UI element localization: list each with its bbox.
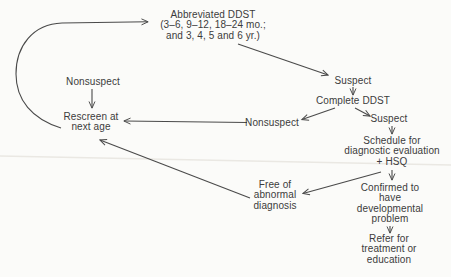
node-nonsuspect-left: Nonsuspect: [60, 77, 126, 87]
node-suspect-top: Suspect: [322, 76, 384, 86]
arrow-complete-ddst-to-nonsuspect: [302, 108, 335, 120]
node-abbreviated-ddst: Abbreviated DDST (3–6, 9–12, 18–24 mo.; …: [143, 10, 283, 41]
arrow-abbreviated-ddst-to-suspect: [238, 44, 328, 75]
flowchart-canvas: Abbreviated DDST (3–6, 9–12, 18–24 mo.; …: [0, 0, 451, 277]
node-confirmed-developmental-problem: Confirmed to have developmental problem: [345, 183, 435, 225]
node-rescreen-at-next-age: Rescreen at next age: [56, 112, 126, 133]
node-complete-ddst: Complete DDST: [313, 96, 393, 106]
arrow-free-of-abnormal-to-rescreen: [100, 140, 250, 198]
node-refer-for-treatment: Refer for treatment or education: [344, 234, 434, 265]
node-suspect-right: Suspect: [359, 114, 419, 124]
arrow-nonsuspect-center-to-rescreen: [124, 121, 247, 123]
node-schedule-diagnostic-evaluation: Schedule for diagnostic evaluation + HSQ: [337, 136, 447, 167]
node-free-of-abnormal-diagnosis: Free of abnormal diagnosis: [240, 180, 310, 211]
node-nonsuspect-center: Nonsuspect: [239, 118, 305, 128]
